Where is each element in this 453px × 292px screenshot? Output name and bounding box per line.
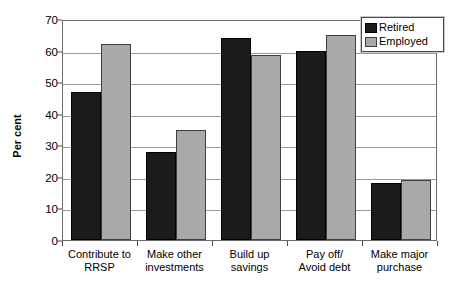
x-axis-category-label: Build upsavings: [206, 248, 293, 274]
bar: [101, 44, 131, 240]
y-axis-tick-label: 10: [26, 204, 58, 215]
bar: [251, 55, 281, 240]
y-axis-title-text: Per cent: [11, 114, 23, 157]
bar: [71, 92, 101, 240]
x-axis-category-label-line: Avoid debt: [281, 261, 368, 274]
x-axis-category-label-line: investments: [131, 261, 218, 274]
x-axis-category-label-line: Contribute to: [56, 248, 143, 261]
y-axis-title: Per cent: [6, 86, 28, 186]
x-axis-category-label: Pay off/Avoid debt: [281, 248, 368, 274]
x-axis-tick-mark: [287, 241, 288, 246]
y-axis-tick-label: 70: [26, 15, 58, 26]
y-axis-tick-label: 20: [26, 172, 58, 183]
bar: [146, 152, 176, 240]
bar: [326, 35, 356, 240]
legend-item-label: Retired: [379, 22, 414, 33]
y-axis-tick-label: 60: [26, 46, 58, 57]
x-axis-category-label-line: Build up: [206, 248, 293, 261]
chart-legend: RetiredEmployed: [361, 17, 444, 52]
bar: [221, 38, 251, 240]
legend-item: Employed: [365, 35, 440, 48]
x-axis-category-label-line: Pay off/: [281, 248, 368, 261]
plot-area: [62, 20, 437, 241]
x-axis-category-label-line: RRSP: [56, 261, 143, 274]
bar: [296, 51, 326, 240]
x-axis-category-label: Make majorpurchase: [356, 248, 443, 274]
y-axis-tick-label: 40: [26, 109, 58, 120]
bar-chart: Per cent 010203040506070 Contribute toRR…: [0, 0, 453, 292]
x-axis-tick-mark: [137, 241, 138, 246]
y-axis-tick-label: 0: [26, 236, 58, 247]
bar: [371, 183, 401, 240]
y-axis-tick-labels: 010203040506070: [26, 0, 58, 292]
x-axis-category-label-line: Make major: [356, 248, 443, 261]
x-axis-tick-mark: [212, 241, 213, 246]
y-axis-tick-label: 50: [26, 78, 58, 89]
x-axis-category-label: Contribute toRRSP: [56, 248, 143, 274]
x-axis-category-label: Make otherinvestments: [131, 248, 218, 274]
bar: [176, 130, 206, 241]
x-axis-category-label-line: Make other: [131, 248, 218, 261]
legend-item-label: Employed: [379, 36, 428, 47]
x-axis-category-label-line: savings: [206, 261, 293, 274]
legend-item: Retired: [365, 21, 440, 34]
y-axis-tick-label: 30: [26, 141, 58, 152]
bars-layer: [63, 21, 436, 240]
x-axis-tick-mark: [437, 241, 438, 246]
legend-swatch-icon: [365, 23, 377, 33]
bar: [401, 180, 431, 240]
x-axis-tick-mark: [62, 241, 63, 246]
x-axis-tick-mark: [362, 241, 363, 246]
x-axis-category-label-line: purchase: [356, 261, 443, 274]
legend-swatch-icon: [365, 37, 377, 47]
x-axis-category-labels: Contribute toRRSPMake otherinvestmentsBu…: [62, 248, 437, 288]
